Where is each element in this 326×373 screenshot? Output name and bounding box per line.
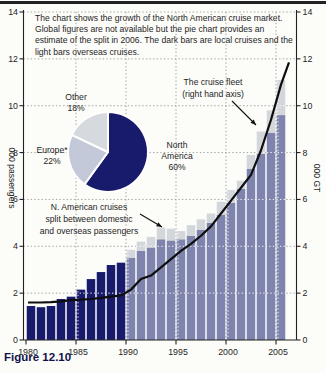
y-left-tick-label: 12 bbox=[8, 54, 18, 64]
pie-label: Other bbox=[65, 92, 87, 102]
figure-12-10: The chart shows the growth of the North … bbox=[0, 0, 326, 373]
bar-1991-local bbox=[137, 251, 146, 340]
x-tick-label: 1995 bbox=[168, 347, 188, 357]
bar-1984-local bbox=[67, 297, 76, 340]
y-right-tick-label: 4 bbox=[303, 241, 308, 251]
x-tick-label: 1985 bbox=[68, 347, 88, 357]
y-left-tick-label: 4 bbox=[13, 241, 18, 251]
y-right-tick-label: 6 bbox=[303, 194, 308, 204]
y-left-tick-label: 2 bbox=[13, 288, 18, 298]
bar-2001-local bbox=[237, 189, 246, 340]
pie-label: North bbox=[166, 140, 187, 150]
bar-1994-overseas bbox=[167, 229, 176, 241]
pie-label: 60% bbox=[168, 162, 186, 172]
bar-2004-local bbox=[267, 133, 276, 340]
y-right-tick-label: 0 bbox=[303, 335, 308, 345]
bar-1989-local bbox=[117, 263, 126, 340]
annotation-text: The cruise fleet bbox=[184, 77, 243, 87]
bar-1985-local bbox=[77, 290, 86, 340]
bar-2002-local bbox=[247, 169, 256, 340]
x-tick-label: 1990 bbox=[118, 347, 138, 357]
y-left-tick-label: 10 bbox=[8, 101, 18, 111]
y-right-tick-label: 8 bbox=[303, 148, 308, 158]
bar-1998-local bbox=[207, 223, 216, 340]
y-right-tick-label: 10 bbox=[303, 101, 313, 111]
bar-1996-overseas bbox=[187, 225, 196, 236]
y-right-tick-label: 14 bbox=[303, 7, 313, 17]
pie-chart bbox=[68, 112, 148, 192]
left-axis-label: 000 passengers bbox=[7, 147, 17, 208]
bar-1996-local bbox=[187, 236, 196, 340]
bar-1988-local bbox=[107, 265, 116, 340]
bar-1981-local bbox=[37, 307, 46, 340]
y-right-tick-label: 2 bbox=[303, 288, 308, 298]
cruise-market-chart: NorthAmerica60%Europe*22%Other18%The cru… bbox=[0, 0, 326, 373]
y-left-tick-label: 14 bbox=[8, 7, 18, 17]
pie-label: Europe* bbox=[36, 145, 68, 155]
bar-1993-local bbox=[157, 239, 166, 340]
annotation-text: and overseas passengers bbox=[40, 226, 138, 236]
bar-1982-local bbox=[47, 306, 56, 340]
bar-1987-local bbox=[97, 272, 106, 340]
annotation-text: (right hand axis) bbox=[182, 89, 244, 99]
pie-label: America bbox=[161, 151, 193, 161]
x-tick-label: 2000 bbox=[218, 347, 238, 357]
annotation-text: N. American cruises bbox=[51, 202, 127, 212]
pie-label: 18% bbox=[67, 103, 85, 113]
bar-1999-local bbox=[217, 215, 226, 340]
bar-1993-overseas bbox=[157, 228, 166, 240]
pie-label: 22% bbox=[43, 156, 61, 166]
bar-1992-local bbox=[147, 247, 156, 340]
bar-1983-local bbox=[57, 299, 66, 340]
bar-1980-local bbox=[27, 306, 36, 340]
right-axis-label: 000 GT bbox=[312, 164, 322, 193]
bar-1990-overseas bbox=[127, 250, 136, 258]
y-left-tick-label: 0 bbox=[13, 335, 18, 345]
bar-2003-local bbox=[257, 154, 266, 340]
bar-1986-local bbox=[87, 279, 96, 340]
x-tick-label: 2005 bbox=[268, 347, 288, 357]
bar-1997-overseas bbox=[197, 219, 206, 230]
annotation-text: split between domestic bbox=[46, 214, 134, 224]
y-right-tick-label: 12 bbox=[303, 54, 313, 64]
figure-caption: Figure 12.10 bbox=[4, 351, 71, 363]
bar-2005-local bbox=[277, 115, 286, 340]
bar-1995-overseas bbox=[177, 231, 186, 239]
